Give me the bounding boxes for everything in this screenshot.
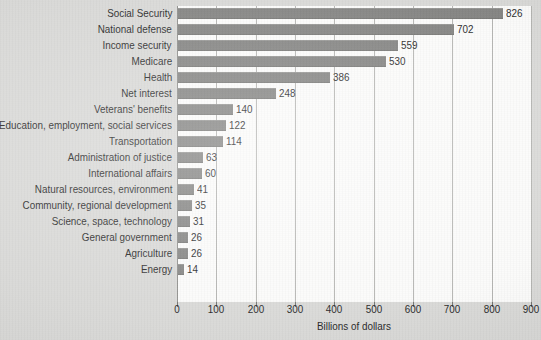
x-axis-title: Billions of dollars xyxy=(188,320,521,332)
bar-and-value: 122 xyxy=(178,120,247,131)
category-label: Science, space, technology xyxy=(52,215,172,228)
category-label: Transportation xyxy=(109,135,172,148)
category-label: General government xyxy=(82,231,172,244)
x-tick-label: 400 xyxy=(326,303,342,315)
bar-row: Administration of justice63 xyxy=(0,150,541,166)
bar xyxy=(178,168,202,179)
x-tick-label: 0 xyxy=(174,303,179,315)
bar-row: National defense702 xyxy=(0,22,541,38)
bar-row: Veterans' benefits140 xyxy=(0,102,541,118)
value-label: 702 xyxy=(457,24,473,35)
bar-row: Agriculture26 xyxy=(0,246,541,262)
value-label: 122 xyxy=(229,120,245,131)
category-label: Social Security xyxy=(107,7,172,20)
bar-row: Health386 xyxy=(0,70,541,86)
category-label: Natural resources, environment xyxy=(34,183,172,196)
x-tick-label: 200 xyxy=(247,303,263,315)
bar xyxy=(178,264,184,275)
value-label: 35 xyxy=(195,200,206,211)
bar xyxy=(178,184,194,195)
bar xyxy=(178,200,192,211)
value-label: 60 xyxy=(205,168,216,179)
bar-and-value: 702 xyxy=(178,24,475,35)
bar xyxy=(178,216,190,227)
bar xyxy=(178,104,233,115)
category-label: Agriculture xyxy=(125,247,172,260)
category-label: Health xyxy=(143,71,172,84)
bar-and-value: 26 xyxy=(178,248,203,259)
x-tick-label: 900 xyxy=(523,303,539,315)
bar xyxy=(178,40,398,51)
bar-and-value: 140 xyxy=(178,104,254,115)
x-axis-ticks: 0100200300400500600700800900 xyxy=(0,303,541,317)
bar xyxy=(178,24,454,35)
value-label: 14 xyxy=(187,264,198,275)
bar-row: Net interest248 xyxy=(0,86,541,102)
bar xyxy=(178,232,188,243)
bar-and-value: 60 xyxy=(178,168,217,179)
bar-and-value: 26 xyxy=(178,232,203,243)
bar-and-value: 248 xyxy=(178,88,297,99)
value-label: 826 xyxy=(506,8,522,19)
bar-row: Social Security826 xyxy=(0,6,541,22)
category-label: Education, employment, social services xyxy=(0,119,172,132)
value-label: 248 xyxy=(279,88,295,99)
category-label: Administration of justice xyxy=(68,151,172,164)
x-tick-label: 800 xyxy=(483,303,499,315)
value-label: 26 xyxy=(191,232,202,243)
bar-row: Income security559 xyxy=(0,38,541,54)
x-tick-label: 700 xyxy=(444,303,460,315)
value-label: 41 xyxy=(197,184,208,195)
bar-row: Transportation114 xyxy=(0,134,541,150)
bar-row: Community, regional development35 xyxy=(0,198,541,214)
category-label: Veterans' benefits xyxy=(94,103,172,116)
bar-row: Education, employment, social services12… xyxy=(0,118,541,134)
category-label: Energy xyxy=(141,263,172,276)
bar xyxy=(178,152,203,163)
value-label: 559 xyxy=(401,40,417,51)
category-label: Medicare xyxy=(131,55,172,68)
value-label: 140 xyxy=(236,104,252,115)
x-tick-label: 600 xyxy=(405,303,421,315)
bar-rows: Social Security826National defense702Inc… xyxy=(0,6,541,278)
bar xyxy=(178,248,188,259)
bar-row: Energy14 xyxy=(0,262,541,278)
bar-and-value: 114 xyxy=(178,136,243,147)
bar xyxy=(178,72,330,83)
bar-row: Natural resources, environment41 xyxy=(0,182,541,198)
category-label: Income security xyxy=(103,39,172,52)
bar xyxy=(178,56,386,67)
value-label: 63 xyxy=(206,152,217,163)
bar xyxy=(178,120,226,131)
bar-row: General government26 xyxy=(0,230,541,246)
bar-and-value: 41 xyxy=(178,184,209,195)
category-label: International affairs xyxy=(88,167,172,180)
bar-and-value: 386 xyxy=(178,72,351,83)
bar xyxy=(178,88,276,99)
category-label: Community, regional development xyxy=(23,199,172,212)
value-label: 114 xyxy=(226,136,242,147)
category-label: Net interest xyxy=(122,87,172,100)
x-tick-label: 100 xyxy=(208,303,224,315)
chart-screenshot: Social Security826National defense702Inc… xyxy=(0,0,541,340)
bar-and-value: 31 xyxy=(178,216,205,227)
bar-and-value: 14 xyxy=(178,264,199,275)
bar-row: International affairs60 xyxy=(0,166,541,182)
bar xyxy=(178,136,223,147)
value-label: 26 xyxy=(191,248,202,259)
bar-and-value: 530 xyxy=(178,56,407,67)
bar-and-value: 63 xyxy=(178,152,218,163)
chart-title-cropped xyxy=(0,0,541,5)
value-label: 530 xyxy=(389,56,405,67)
bar-row: Science, space, technology31 xyxy=(0,214,541,230)
bar-and-value: 826 xyxy=(178,8,524,19)
bar-and-value: 35 xyxy=(178,200,207,211)
bar-row: Medicare530 xyxy=(0,54,541,70)
bar xyxy=(178,8,503,19)
value-label: 31 xyxy=(193,216,204,227)
x-tick-label: 300 xyxy=(287,303,303,315)
bar-and-value: 559 xyxy=(178,40,419,51)
x-tick-label: 500 xyxy=(365,303,381,315)
category-label: National defense xyxy=(98,23,172,36)
value-label: 386 xyxy=(333,72,349,83)
